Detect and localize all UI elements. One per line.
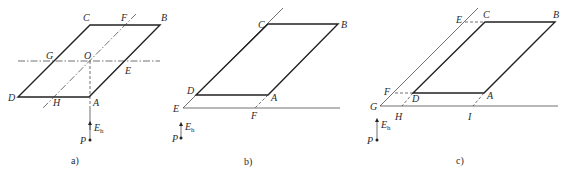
label-d-c: D xyxy=(411,93,420,104)
figure-canvas: C F B G O E D H A Eh P a) C B D A E F Eh… xyxy=(0,0,564,174)
label-a-c: A xyxy=(486,90,494,101)
label-f-a: F xyxy=(120,12,128,23)
line-g-through-fe xyxy=(380,8,478,106)
label-f-c: F xyxy=(383,86,391,97)
label-o-a: O xyxy=(84,50,91,61)
point-p-a xyxy=(89,139,92,142)
label-f-b: F xyxy=(250,110,258,121)
diagram-svg: C F B G O E D H A Eh P a) C B D A E F Eh… xyxy=(0,0,564,174)
label-h-c: H xyxy=(394,111,403,122)
label-eh-b: Eh xyxy=(184,121,195,134)
label-c-c: C xyxy=(483,9,490,20)
label-i-c: I xyxy=(467,111,472,122)
label-b-b: B xyxy=(341,19,347,30)
label-c-a: C xyxy=(83,12,90,23)
label-d-b: D xyxy=(186,85,195,96)
label-h-a: H xyxy=(52,97,61,108)
label-g-c: G xyxy=(370,101,377,112)
label-b-c: B xyxy=(553,9,559,20)
label-eh-c: Eh xyxy=(380,119,391,132)
dashed-ai xyxy=(473,93,484,106)
label-a-b: A xyxy=(270,92,278,103)
panel-c: E C B F D A G H I Eh P c) xyxy=(366,8,559,167)
caption-b: b) xyxy=(244,156,252,168)
parallelogram-abcd-b xyxy=(196,24,338,95)
label-b-a: B xyxy=(161,12,167,23)
panel-b: C B D A E F Eh P b) xyxy=(171,8,347,168)
label-p-a: P xyxy=(79,135,86,146)
dashed-af xyxy=(255,95,268,108)
label-c-b: C xyxy=(258,19,265,30)
point-p-c xyxy=(376,139,379,142)
label-e-b: E xyxy=(172,103,179,114)
label-p-c: P xyxy=(366,135,373,146)
caption-c: c) xyxy=(456,155,464,167)
point-p-b xyxy=(180,137,183,140)
label-e-c: E xyxy=(455,14,462,25)
label-eh-a: Eh xyxy=(93,122,104,135)
label-e-a: E xyxy=(124,65,131,76)
parallelogram-abcd-c xyxy=(413,22,555,93)
label-p-b: P xyxy=(171,133,178,144)
caption-a: a) xyxy=(71,155,79,167)
label-a-a: A xyxy=(92,97,100,108)
panel-a: C F B G O E D H A Eh P a) xyxy=(7,12,167,167)
label-d-a: D xyxy=(7,92,16,103)
label-g-a: G xyxy=(46,50,53,61)
parallelogram-abcd-a xyxy=(18,25,160,97)
